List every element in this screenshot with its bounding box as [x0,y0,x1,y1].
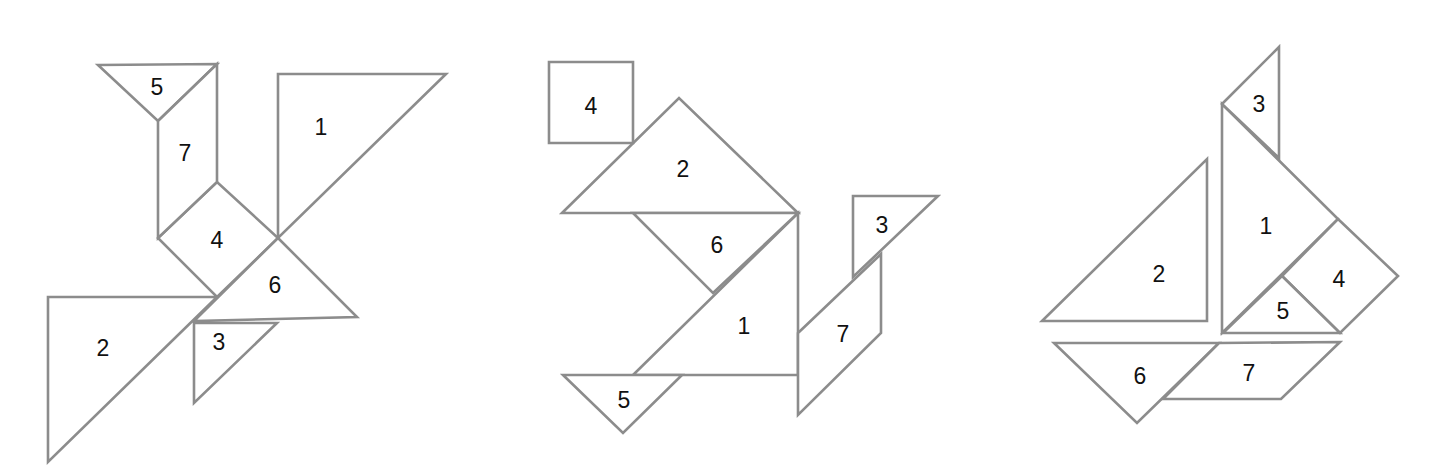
piece-label: 4 [211,227,224,253]
tangram-piece-1 [278,74,446,238]
piece-label: 6 [1134,363,1147,389]
tangram-piece-2 [1042,159,1207,321]
piece-label: 5 [151,74,164,100]
piece-label: 4 [1333,266,1346,292]
piece-label: 3 [213,329,226,355]
piece-label: 5 [618,387,631,413]
piece-label: 7 [837,321,850,347]
piece-label: 1 [315,114,328,140]
piece-label: 3 [876,212,889,238]
piece-label: 7 [1243,360,1256,386]
tangram-piece-3 [194,323,277,403]
piece-label: 2 [1153,261,1166,287]
piece-label: 1 [738,313,751,339]
piece-label: 5 [1277,298,1290,324]
tangram-piece-3 [853,196,938,277]
piece-label: 6 [269,272,282,298]
piece-label: 2 [677,156,690,182]
figure-swan: 1234567 [549,62,938,433]
tangram-diagram: 123456712345671234567 [0,0,1447,475]
piece-label: 7 [179,140,192,166]
figure-bird: 1234567 [48,64,446,462]
figure-sailboat: 1234567 [1042,47,1398,423]
piece-label: 2 [97,335,110,361]
piece-label: 3 [1253,91,1266,117]
piece-label: 1 [1260,213,1273,239]
piece-label: 4 [585,93,598,119]
piece-label: 6 [711,232,724,258]
